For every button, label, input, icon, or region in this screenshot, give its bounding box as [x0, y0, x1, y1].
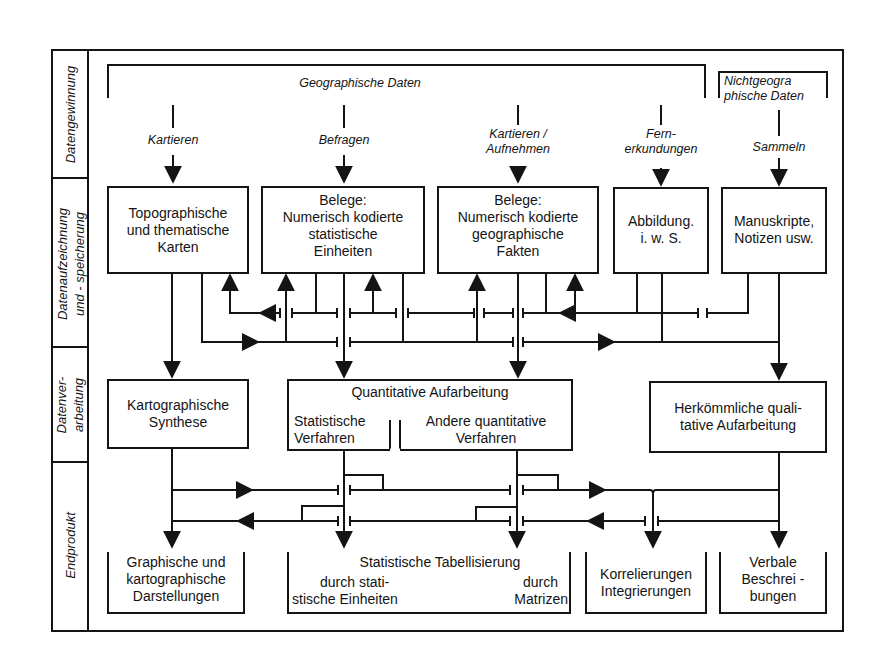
- section-label-datengewinnung: Datengewinnung: [63, 55, 78, 175]
- line: Verfahren: [294, 430, 355, 446]
- method-line1: Fern-: [646, 127, 676, 141]
- section-label-endprodukt: Endprodukt: [63, 496, 78, 596]
- storage-abbildung: Abbildung. i. w. S.: [614, 213, 708, 247]
- section-label-line2: und - speicherung: [72, 212, 87, 316]
- storage-belege-geographische-fakten: Belege: Numerisch kodierte geographische…: [438, 192, 598, 260]
- line: und thematische: [127, 222, 230, 238]
- line: Kartographische: [127, 397, 229, 413]
- source-nongeographic-line2: phische Daten: [724, 89, 804, 103]
- product-verbale-beschreibungen: Verbale Beschrei - bungen: [720, 554, 826, 605]
- product-korrelierungen: Korrelierungen Integrierungen: [586, 566, 706, 600]
- processing-quantitative-title: Quantitative Aufarbeitung: [288, 384, 572, 401]
- line: Numerisch kodierte: [458, 209, 579, 225]
- line: Manuskripte,: [734, 213, 814, 229]
- line: Numerisch kodierte: [283, 209, 404, 225]
- product-tabellisierung-statistische-einheiten: durch stati- stische Einheiten: [292, 574, 442, 608]
- line: Abbildung.: [628, 213, 694, 229]
- method-line1: Kartieren /: [489, 127, 547, 141]
- line: Matrizen: [514, 591, 568, 607]
- line: Herkömmliche quali-: [674, 400, 802, 416]
- section-label-line1: Datenaufzeichnung: [55, 208, 70, 320]
- line: Darstellungen: [133, 588, 219, 604]
- processing-kartographische-synthese: Kartographische Synthese: [108, 397, 248, 431]
- line: Fakten: [497, 243, 540, 259]
- product-graphische-darstellungen: Graphische und kartographische Darstellu…: [108, 554, 244, 605]
- processing-herkoemmliche-qualitative: Herkömmliche quali- tative Aufarbeitung: [650, 400, 826, 434]
- line: i. w. S.: [640, 230, 681, 246]
- line: bungen: [750, 588, 797, 604]
- line: Belege:: [494, 192, 541, 208]
- line: durch: [523, 574, 568, 590]
- line: tative Aufarbeitung: [680, 417, 796, 433]
- line: Notizen usw.: [734, 230, 813, 246]
- product-tabellisierung-matrizen: durch Matrizen: [490, 574, 568, 608]
- method-kartieren-aufnehmen: Kartieren / Aufnehmen: [458, 127, 578, 157]
- line: kartographische: [126, 571, 226, 587]
- product-tabellisierung-title: Statistische Tabellisierung: [300, 554, 580, 571]
- section-label-line1: Datenver-: [54, 377, 69, 434]
- line: geographische: [472, 226, 564, 242]
- line: Graphische und: [127, 554, 226, 570]
- source-nongeographic-line1: Nichtgeogra: [724, 74, 791, 88]
- line: statistische: [308, 226, 377, 242]
- method-sammeln: Sammeln: [729, 140, 829, 155]
- method-kartieren: Kartieren: [123, 133, 223, 148]
- processing-andere-verfahren: Andere quantitative Verfahren: [400, 413, 572, 447]
- method-line2: erkundungen: [625, 142, 698, 156]
- method-fernerkundungen: Fern- erkundungen: [606, 127, 716, 157]
- line: stische Einheiten: [292, 591, 398, 607]
- section-label-datenverarbeitung: Datenver- arbeitung: [53, 355, 87, 455]
- line: durch stati-: [292, 574, 389, 590]
- storage-belege-statistische-einheiten: Belege: Numerisch kodierte statistische …: [262, 192, 424, 260]
- line: Andere quantitative: [426, 413, 547, 429]
- line: Topographische: [129, 205, 228, 221]
- section-label-line2: arbeitung: [71, 378, 86, 432]
- line: Verbale: [749, 554, 796, 570]
- line: Statistische: [294, 413, 366, 429]
- processing-statistische-verfahren: Statistische Verfahren: [290, 413, 392, 447]
- method-befragen: Befragen: [294, 133, 394, 148]
- line: Korrelierungen: [600, 566, 692, 582]
- line: Verfahren: [456, 430, 517, 446]
- storage-topographische-karten: Topographische und thematische Karten: [108, 205, 248, 256]
- line: Belege:: [319, 192, 366, 208]
- line: Einheiten: [314, 243, 372, 259]
- source-geographic: Geographische Daten: [250, 76, 470, 91]
- line: Integrierungen: [601, 583, 691, 599]
- line: Beschrei -: [741, 571, 804, 587]
- line: Karten: [157, 239, 198, 255]
- line: Synthese: [149, 414, 207, 430]
- source-nongeographic: Nichtgeogra phische Daten: [718, 74, 834, 104]
- section-label-datenaufzeichnung: Datenaufzeichnung und - speicherung: [54, 179, 88, 349]
- method-line2: Aufnehmen: [486, 142, 550, 156]
- storage-manuskripte: Manuskripte, Notizen usw.: [722, 213, 826, 247]
